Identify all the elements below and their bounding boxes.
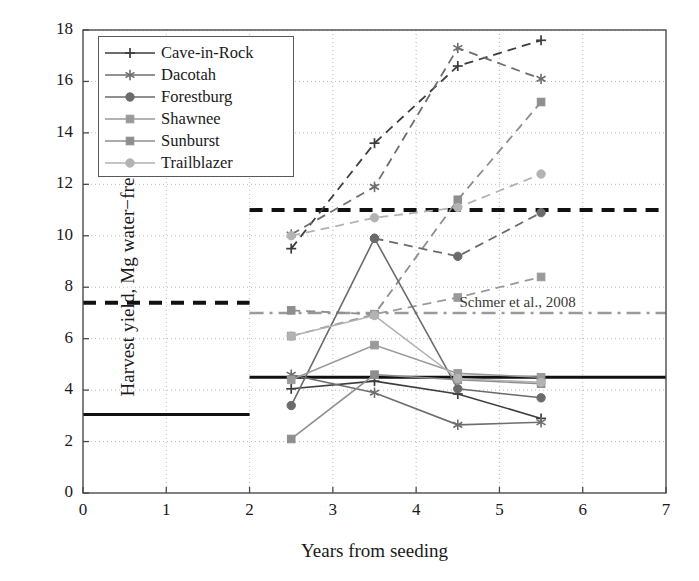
y-tick-label: 14 <box>33 122 73 142</box>
data-marker <box>537 378 545 386</box>
x-tick-label: 6 <box>563 500 603 520</box>
data-marker <box>454 385 462 393</box>
series-line-cave-in-rock <box>291 40 541 248</box>
data-marker <box>371 371 379 379</box>
y-tick-label: 8 <box>33 276 73 296</box>
data-marker <box>537 98 545 106</box>
data-marker <box>287 232 295 240</box>
y-tick-label: 12 <box>33 173 73 193</box>
data-marker <box>287 401 295 409</box>
data-marker <box>126 159 134 167</box>
y-tick-label: 0 <box>33 482 73 502</box>
data-marker <box>126 115 134 123</box>
data-marker <box>454 374 462 382</box>
data-marker <box>287 307 295 315</box>
legend-symbol-plus-icon <box>99 42 161 64</box>
data-marker <box>454 203 462 211</box>
legend-item-forestburg[interactable]: Forestburg <box>99 86 293 108</box>
y-tick-label: 2 <box>33 431 73 451</box>
data-marker <box>287 376 295 384</box>
legend-symbol-square-icon <box>99 108 161 130</box>
legend-item-trailblazer[interactable]: Trailblazer <box>99 152 293 174</box>
legend-symbol-circle-icon <box>99 152 161 174</box>
legend-item-cave-in-rock[interactable]: Cave-in-Rock <box>99 42 293 64</box>
legend-item-sunburst[interactable]: Sunburst <box>99 130 293 152</box>
x-tick-label: 7 <box>646 500 686 520</box>
data-marker <box>287 332 295 340</box>
y-tick-label: 6 <box>33 328 73 348</box>
data-marker <box>370 234 378 242</box>
x-tick-label: 3 <box>313 500 353 520</box>
legend-item-shawnee[interactable]: Shawnee <box>99 108 293 130</box>
data-marker <box>370 311 378 319</box>
data-marker <box>454 196 462 204</box>
legend-label: Dacotah <box>161 64 216 86</box>
legend-label: Forestburg <box>161 86 232 108</box>
figure: Harvest yield, Mg water−free/ha Years fr… <box>0 0 699 581</box>
legend-item-dacotah[interactable]: Dacotah <box>99 64 293 86</box>
data-marker <box>126 93 134 101</box>
legend-symbol-circle-icon <box>99 86 161 108</box>
x-tick-label: 0 <box>63 500 103 520</box>
y-tick-label: 16 <box>33 70 73 90</box>
y-tick-label: 18 <box>33 19 73 39</box>
data-marker <box>371 341 379 349</box>
x-tick-label: 5 <box>479 500 519 520</box>
legend-symbol-star-icon <box>99 64 161 86</box>
data-marker <box>454 252 462 260</box>
x-tick-label: 4 <box>396 500 436 520</box>
y-tick-label: 10 <box>33 225 73 245</box>
data-marker <box>126 137 134 145</box>
data-marker <box>370 214 378 222</box>
x-tick-label: 1 <box>146 500 186 520</box>
data-marker <box>287 435 295 443</box>
y-tick-label: 4 <box>33 379 73 399</box>
data-marker <box>537 394 545 402</box>
chart-annotation: Schmer et al., 2008 <box>459 294 575 311</box>
data-marker <box>537 170 545 178</box>
legend: Cave-in-RockDacotahForestburgShawneeSunb… <box>98 36 294 177</box>
legend-label: Shawnee <box>161 108 221 130</box>
legend-label: Trailblazer <box>161 152 233 174</box>
legend-label: Cave-in-Rock <box>161 42 254 64</box>
series-line-forestburg <box>375 213 542 257</box>
x-tick-label: 2 <box>230 500 270 520</box>
data-marker <box>537 208 545 216</box>
legend-symbol-square-icon <box>99 130 161 152</box>
data-marker <box>537 273 545 281</box>
legend-label: Sunburst <box>161 130 220 152</box>
x-axis-label: Years from seeding <box>83 540 666 562</box>
